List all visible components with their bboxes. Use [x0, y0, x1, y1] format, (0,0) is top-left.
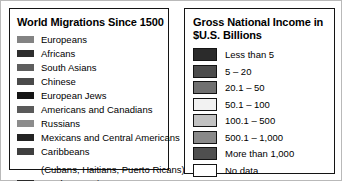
color-swatch-southeast-asians: [17, 180, 34, 181]
legend-sublabel: (Cubans, Haitians, Puerto Ricans): [17, 164, 185, 175]
legend-sublabel-caribbeans: (Cubans, Haitians, Puerto Ricans): [17, 159, 162, 177]
legend-item-500-to-1000: 500.1 – 1,000: [193, 130, 328, 145]
color-swatch-500-to-1000: [193, 131, 217, 144]
legend-item-european-jews: European Jews: [17, 89, 162, 102]
legend-item-southeast-asians: Southeast Asians: [17, 177, 162, 181]
color-swatch-5-to-20: [193, 65, 217, 78]
legend-item-100-to-500: 100.1 – 500: [193, 113, 328, 128]
legend-label: 5 – 20: [225, 64, 251, 79]
color-swatch-africans: [17, 50, 34, 57]
legend-item-chinese: Chinese: [17, 75, 162, 88]
legend-label: 500.1 – 1,000: [225, 130, 283, 145]
color-swatch-chinese: [17, 78, 34, 85]
world-migrations-legend-list: Europeans Africans South Asians Chinese …: [17, 33, 162, 181]
legend-label: Chinese: [41, 75, 76, 88]
legend-label: No data: [225, 163, 258, 178]
legend-item-no-data: No data: [193, 163, 328, 178]
gross-national-income-legend-panel: Gross National Income in $U.S. Billions …: [184, 8, 335, 174]
legend-label: 50.1 – 100: [225, 97, 270, 112]
legend-label: Mexicans and Central Americans: [41, 131, 180, 144]
legend-item-africans: Africans: [17, 47, 162, 60]
color-swatch-no-data: [193, 164, 217, 177]
legend-label: Russians: [41, 117, 80, 130]
legend-item-europeans: Europeans: [17, 33, 162, 46]
legend-label: Europeans: [41, 33, 87, 46]
legend-label: Caribbeans: [41, 145, 90, 158]
legend-item-less-than-5: Less than 5: [193, 47, 328, 62]
legend-label: Southeast Asians: [41, 177, 114, 181]
legend-item-caribbeans: Caribbeans: [17, 145, 162, 158]
legend-label: South Asians: [41, 61, 96, 74]
gross-national-income-title: Gross National Income in $U.S. Billions: [193, 16, 328, 42]
color-swatch-european-jews: [17, 92, 34, 99]
legend-item-20-to-50: 20.1 – 50: [193, 80, 328, 95]
legend-item-5-to-20: 5 – 20: [193, 64, 328, 79]
legend-label: Less than 5: [225, 47, 274, 62]
legend-item-mexicans-and-central-americans: Mexicans and Central Americans: [17, 131, 162, 144]
legend-item-americans-and-canadians: Americans and Canadians: [17, 103, 162, 116]
color-swatch-more-than-1000: [193, 147, 217, 160]
color-swatch-russians: [17, 120, 34, 127]
color-swatch-less-than-5: [193, 48, 217, 61]
legend-item-50-to-100: 50.1 – 100: [193, 97, 328, 112]
color-swatch-50-to-100: [193, 98, 217, 111]
legend-label: European Jews: [41, 89, 106, 102]
color-swatch-100-to-500: [193, 114, 217, 127]
legend-canvas: World Migrations Since 1500 Europeans Af…: [0, 0, 342, 181]
legend-label: 20.1 – 50: [225, 80, 265, 95]
color-swatch-americans-and-canadians: [17, 106, 34, 113]
legend-label: More than 1,000: [225, 146, 294, 161]
legend-label: Africans: [41, 47, 75, 60]
legend-item-more-than-1000: More than 1,000: [193, 146, 328, 161]
legend-label: 100.1 – 500: [225, 113, 275, 128]
color-swatch-europeans: [17, 36, 34, 43]
color-swatch-south-asians: [17, 64, 34, 71]
legend-item-russians: Russians: [17, 117, 162, 130]
gni-legend-list: Less than 5 5 – 20 20.1 – 50 50.1 – 100 …: [193, 47, 328, 178]
color-swatch-caribbeans: [17, 148, 34, 155]
world-migrations-legend-panel: World Migrations Since 1500 Europeans Af…: [9, 8, 169, 170]
color-swatch-20-to-50: [193, 81, 217, 94]
legend-label: Americans and Canadians: [41, 103, 152, 116]
world-migrations-title: World Migrations Since 1500: [17, 16, 162, 29]
legend-item-south-asians: South Asians: [17, 61, 162, 74]
color-swatch-mexicans-and-central-americans: [17, 134, 34, 141]
